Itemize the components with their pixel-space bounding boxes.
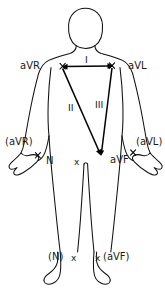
ecg-limb-lead-diagram: I II III aVR aVL (aVR) (aVL) N x aVF (N)… [0,0,165,295]
label-neutral-hand: N [46,156,53,166]
electrode-label-torso: x [74,157,79,167]
label-lead-one: I [85,55,88,65]
neck-and-right-shoulder [95,46,133,74]
diagram-canvas [0,0,165,295]
label-avf-foot: (aVF) [103,252,130,262]
label-neutral-foot: (N) [48,252,63,262]
label-lead-three: III [95,100,103,110]
label-lead-two: II [68,103,74,113]
torso-left-side-outline [48,68,51,136]
right-leg-inner-outline [88,164,94,252]
lead-one-line [65,66,111,67]
electrode-mark-right-hand [131,150,136,155]
label-avr-hand: (aVR) [5,137,33,147]
label-avr-shoulder: aVR [20,61,40,71]
torso-right-side-outline [120,68,123,136]
neck-and-left-shoulder [39,46,77,74]
left-hand-outline [9,153,39,175]
label-avf-vertex: aVF [110,155,129,165]
electrode-label-left-ankle: x [71,253,76,263]
right-hand-outline [132,153,162,175]
label-avl-shoulder: aVL [128,61,147,71]
lead-three-line [102,68,112,152]
crotch-outline [84,163,88,164]
left-leg-inner-outline [78,164,84,252]
label-avl-hand: (aVL) [136,137,162,147]
electrode-label-right-ankle: x [95,253,100,263]
head-outline [69,8,103,48]
left-leg-outer-outline [49,136,60,252]
